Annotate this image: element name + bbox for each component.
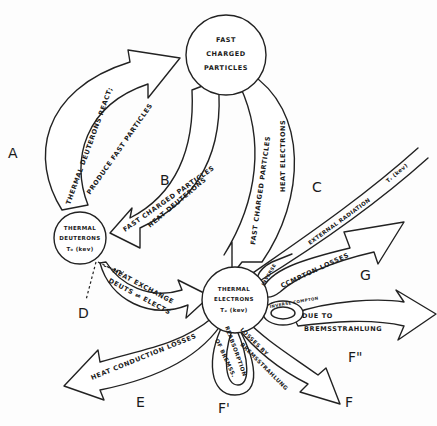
letter-d: D [78,305,89,321]
deut-line-1: THERMAL [64,225,96,231]
letter-c: C [312,179,322,195]
energy-flow-diagram: FAST CHARGED PARTICLES THERMAL DEUTERONS… [0,0,437,426]
letter-e: E [136,394,145,410]
fast-line-2: CHARGED [206,50,246,58]
letter-f-prime: F' [218,400,230,416]
letter-b: B [160,172,170,188]
letter-f: F [345,394,353,410]
deut-line-3: T₀ (kev) [66,246,93,252]
elec-line-2: ELECTRONS [214,296,254,302]
letter-f-double: F" [348,349,363,365]
elec-line-1: THERMAL [218,286,250,292]
letter-g: G [360,267,371,283]
fpp-text-2: BREMSSTRAHLUNG [304,325,382,333]
fast-line-1: FAST [216,36,236,44]
deut-line-2: DEUTERONS [59,235,100,241]
c-text-2: HEAT ELECTRONS [279,120,287,192]
letter-a: A [8,145,18,161]
fpp-text-1: DUE TO [302,312,333,320]
fast-line-3: PARTICLES [204,64,248,72]
diagram-svg: FAST CHARGED PARTICLES THERMAL DEUTERONS… [0,0,437,426]
elec-line-3: Tₑ (kev) [220,307,247,313]
